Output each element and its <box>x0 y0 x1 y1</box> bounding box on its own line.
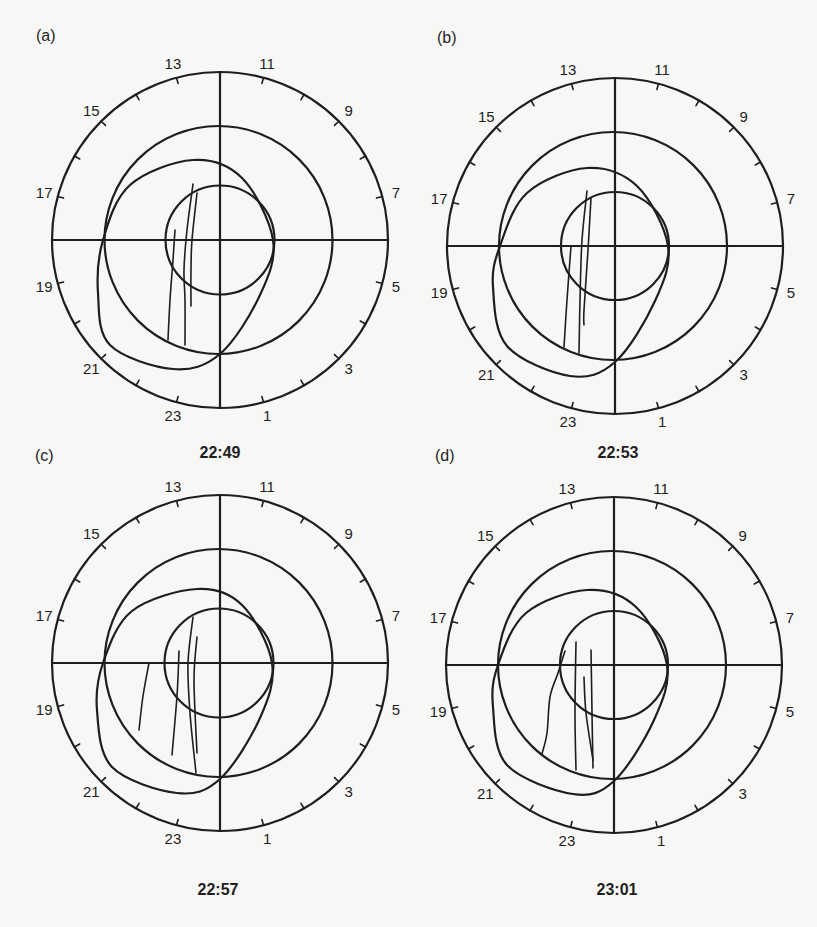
hour-tick <box>729 780 733 784</box>
hour-tick <box>469 581 474 584</box>
auroral-arc <box>168 230 175 340</box>
hour-label: 9 <box>345 525 353 542</box>
hour-tick <box>657 403 659 409</box>
hour-label: 1 <box>263 407 271 424</box>
hour-tick <box>496 361 500 365</box>
hour-tick <box>452 707 458 709</box>
hour-label: 17 <box>36 184 53 201</box>
hour-tick <box>75 744 80 747</box>
hour-label: 11 <box>654 61 670 78</box>
hour-tick <box>530 520 533 525</box>
hour-tick <box>377 620 383 622</box>
hour-tick <box>58 282 64 284</box>
polar-dial: 1357911131517192123 <box>36 478 400 847</box>
auroral-arc <box>564 246 571 347</box>
hour-tick <box>101 778 105 782</box>
auroral-arc <box>542 651 565 754</box>
hour-tick <box>262 78 264 84</box>
hour-label: 3 <box>739 785 747 802</box>
hour-label: 17 <box>36 607 53 624</box>
hour-tick <box>470 162 475 165</box>
hour-tick <box>262 501 264 507</box>
hour-tick <box>469 746 474 749</box>
hour-label: 5 <box>786 703 794 720</box>
hour-tick <box>470 327 475 330</box>
hour-tick <box>58 705 64 707</box>
hour-tick <box>360 579 365 582</box>
hour-tick <box>657 84 659 90</box>
panel-letter: (d) <box>435 447 455 464</box>
hour-tick <box>571 503 573 509</box>
hour-tick <box>453 203 459 205</box>
hour-label: 13 <box>559 480 576 497</box>
polar-dial: 1357911131517192123 <box>431 61 795 430</box>
hour-tick <box>301 803 304 808</box>
hour-label: 3 <box>345 783 353 800</box>
auroral-dial-plot-figure: (a) 22:49 1357911131517192123 (b) 22:53 … <box>0 0 817 927</box>
auroral-arc <box>194 637 197 753</box>
hour-label: 13 <box>560 61 577 78</box>
hour-label: 11 <box>653 480 669 497</box>
hour-label: 19 <box>430 703 447 720</box>
hour-label: 7 <box>392 184 400 201</box>
hour-tick <box>262 820 264 826</box>
hour-label: 5 <box>392 278 400 295</box>
hour-tick <box>360 744 365 747</box>
hour-tick <box>75 156 80 159</box>
hour-label: 7 <box>787 190 795 207</box>
hour-tick <box>571 822 573 828</box>
hour-tick <box>755 162 760 165</box>
hour-tick <box>453 288 459 290</box>
hour-label: 19 <box>36 701 53 718</box>
hour-tick <box>530 805 533 810</box>
hour-tick <box>136 518 139 523</box>
hour-label: 17 <box>430 609 447 626</box>
hour-tick <box>136 95 139 100</box>
hour-label: 3 <box>740 366 748 383</box>
hour-label: 21 <box>477 785 494 802</box>
panel-time: 22:57 <box>198 881 239 898</box>
hour-tick <box>136 803 139 808</box>
hour-label: 23 <box>165 407 182 424</box>
hour-label: 7 <box>786 609 794 626</box>
hour-label: 13 <box>165 478 182 495</box>
hour-tick <box>730 361 734 365</box>
hour-tick <box>656 503 658 509</box>
hour-tick <box>531 101 534 106</box>
hour-tick <box>772 203 778 205</box>
panel-time: 23:01 <box>597 881 638 898</box>
hour-label: 1 <box>658 413 666 430</box>
hour-label: 9 <box>345 102 353 119</box>
hour-label: 1 <box>657 832 665 849</box>
hour-tick <box>496 127 500 131</box>
hour-label: 19 <box>36 278 53 295</box>
hour-tick <box>58 620 64 622</box>
hour-tick <box>177 501 179 507</box>
hour-tick <box>262 397 264 403</box>
hour-tick <box>572 84 574 90</box>
hour-tick <box>495 546 499 550</box>
hour-label: 15 <box>83 525 100 542</box>
hour-label: 11 <box>259 478 275 495</box>
hour-tick <box>377 282 383 284</box>
hour-tick <box>301 518 304 523</box>
hour-tick <box>377 705 383 707</box>
auroral-arc <box>139 663 149 730</box>
dial-panel-a: (a) 22:49 1357911131517192123 <box>36 27 400 461</box>
auroral-arc <box>172 651 179 755</box>
hour-tick <box>377 197 383 199</box>
dial-panel-c: (c) 22:57 1357911131517192123 <box>35 447 400 898</box>
hour-label: 15 <box>477 527 494 544</box>
auroral-arc <box>575 642 576 770</box>
hour-tick <box>656 822 658 828</box>
hour-tick <box>730 127 734 131</box>
hour-tick <box>360 321 365 324</box>
hour-label: 9 <box>739 527 747 544</box>
hour-tick <box>754 746 759 749</box>
hour-tick <box>101 355 105 359</box>
hour-tick <box>729 546 733 550</box>
hour-tick <box>301 380 304 385</box>
hour-tick <box>335 778 339 782</box>
hour-label: 3 <box>345 360 353 377</box>
hour-tick <box>531 386 534 391</box>
